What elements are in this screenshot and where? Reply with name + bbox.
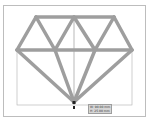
diamond-strokes <box>17 17 132 102</box>
dimension-tooltip: W: 90.00 mm H: 25.00 mm <box>88 104 112 114</box>
diamond-shape[interactable] <box>0 0 154 121</box>
anchor-point-handle[interactable] <box>73 101 76 104</box>
cursor-icon <box>73 106 75 109</box>
tooltip-height: H: 25.00 mm <box>90 109 110 113</box>
